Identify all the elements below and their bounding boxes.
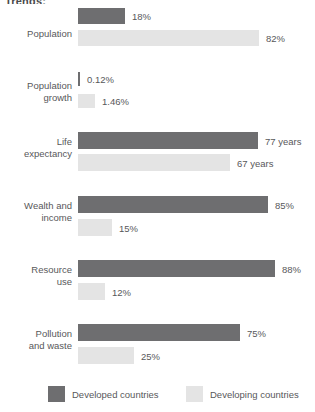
category-label: Pollutionand waste [0, 328, 72, 351]
bar-value-label: 12% [112, 286, 131, 297]
bar-developed [78, 196, 268, 213]
bar-developing [78, 283, 105, 300]
category-label: Resourceuse [0, 264, 72, 287]
category-label-line: expectancy [0, 148, 72, 160]
legend-label-developed: Developed countries [72, 389, 159, 400]
category-label-line: Population [0, 28, 72, 40]
bar-value-label: 75% [247, 327, 266, 338]
category-label-line: use [0, 276, 72, 288]
bar-value-label: 82% [266, 33, 285, 44]
bar-value-label: 77 years [265, 135, 301, 146]
chart-row: Populationgrowth0.12%1.46% [0, 72, 315, 108]
chart-row: Population18%82% [0, 8, 315, 46]
category-label: Lifeexpectancy [0, 136, 72, 159]
bar-value-label: 18% [132, 11, 151, 22]
category-label-line: growth [0, 92, 72, 104]
chart-container: Trends: Population18%82%Populationgrowth… [0, 0, 315, 412]
bar-value-label: 67 years [237, 157, 273, 168]
chart-row: Lifeexpectancy77 years67 years [0, 132, 315, 171]
category-label-line: Population [0, 80, 72, 92]
bar-value-label: 85% [275, 199, 294, 210]
bar-developed [78, 8, 125, 24]
bar-developed [78, 72, 80, 86]
category-label-line: income [0, 212, 72, 224]
chart-title: Trends: [5, 0, 46, 4]
bar-value-label: 15% [119, 222, 138, 233]
category-label-line: and waste [0, 340, 72, 352]
legend-swatch-developed-icon [48, 386, 65, 402]
category-label-line: Wealth and [0, 200, 72, 212]
category-label-line: Pollution [0, 328, 72, 340]
bar-developed [78, 260, 275, 277]
bar-developed [78, 324, 240, 341]
chart-row: Wealth andincome85%15% [0, 196, 315, 236]
category-label-line: Life [0, 136, 72, 148]
category-label-line: Resource [0, 264, 72, 276]
bar-developing [78, 219, 112, 236]
bar-value-label: 25% [141, 350, 160, 361]
bar-developed [78, 132, 258, 149]
category-label: Wealth andincome [0, 200, 72, 223]
bar-developing [78, 154, 230, 171]
bar-value-label: 0.12% [87, 74, 114, 85]
chart-row: Pollutionand waste75%25% [0, 324, 315, 364]
bar-developing [78, 30, 259, 46]
category-label: Populationgrowth [0, 80, 72, 103]
bar-value-label: 88% [282, 263, 301, 274]
bar-developing [78, 94, 95, 108]
bar-value-label: 1.46% [102, 96, 129, 107]
chart-legend: Developed countries Developing countries [0, 386, 315, 406]
legend-label-developing: Developing countries [210, 389, 299, 400]
category-label: Population [0, 28, 72, 40]
chart-row: Resourceuse88%12% [0, 260, 315, 300]
bar-developing [78, 347, 134, 364]
legend-swatch-developing-icon [186, 386, 203, 402]
